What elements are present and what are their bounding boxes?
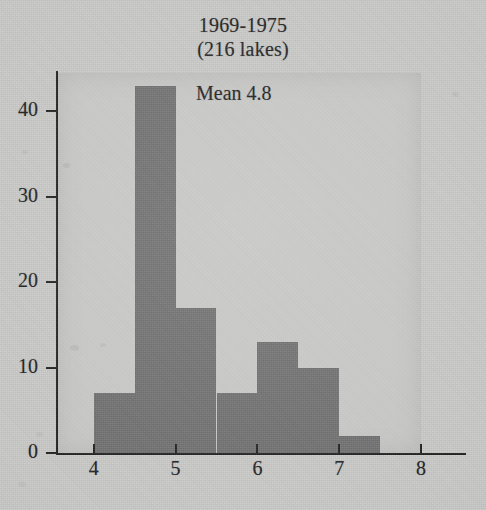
y-axis-label: 40 [18,98,38,121]
x-axis-label: 7 [319,457,359,480]
x-axis-tick [93,444,95,454]
histogram-bar [339,436,380,453]
x-axis-label: 8 [401,457,441,480]
scan-speck [452,92,459,97]
histogram-bar [176,308,217,453]
x-axis-label: 5 [156,457,196,480]
y-axis-tick [46,281,57,283]
histogram-bar [257,342,298,453]
scan-speck [36,432,43,437]
y-axis-label: 10 [18,355,38,378]
y-axis-tick [46,110,57,112]
x-axis-tick [420,444,422,454]
scan-speck [22,150,28,154]
x-axis-label: 6 [237,457,277,480]
histogram-bar [135,86,176,453]
y-axis-tick [46,452,57,454]
histogram-bar [94,393,135,453]
x-axis-line [56,453,466,455]
page-title: 1969-1975 [0,14,486,38]
y-axis-line [56,71,58,455]
y-axis-label: 20 [18,269,38,292]
histogram-figure: 1969-1975 (216 lakes) Mean 4.8 010203040… [0,0,486,510]
mean-annotation: Mean 4.8 [196,82,272,105]
y-axis-tick [46,367,57,369]
chart-title-block: 1969-1975 (216 lakes) [0,14,486,61]
x-axis-tick [175,444,177,454]
y-axis-label: 30 [18,184,38,207]
x-axis-tick [256,444,258,454]
plot-panel [57,73,421,453]
histogram-bar [217,393,258,453]
y-axis-tick [46,196,57,198]
bars-layer [57,73,421,453]
x-axis-tick [338,444,340,454]
chart-subtitle: (216 lakes) [0,38,486,62]
y-axis-label: 0 [28,440,38,463]
scan-speck [18,482,26,487]
x-axis-label: 4 [74,457,114,480]
histogram-bar [298,368,339,453]
